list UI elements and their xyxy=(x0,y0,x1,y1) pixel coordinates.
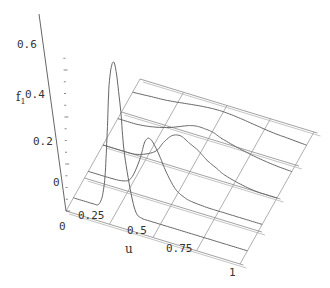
z-tick-label: 0.6 xyxy=(17,38,37,51)
x-axis-label: u xyxy=(125,242,133,256)
z-axis-label-subscript: 1 xyxy=(20,97,25,106)
x-tick-label: 0.75 xyxy=(166,242,193,255)
x-tick-label: 1 xyxy=(229,266,236,279)
base-grid xyxy=(66,79,320,268)
z-tick-label: 0.2 xyxy=(33,135,53,148)
x-tick-label: 0.25 xyxy=(78,209,105,222)
slice-baseline-shadow xyxy=(125,115,302,169)
x-tick-label: 0 xyxy=(59,220,66,233)
slice-baseline-shadow xyxy=(106,148,283,202)
series-curve-slice-1 xyxy=(73,62,247,251)
slice-baseline xyxy=(140,79,317,133)
z-tick-label: 0 xyxy=(53,176,60,189)
slice-baseline-shadow xyxy=(88,181,265,235)
labels: 0 0.25 0.5 0.75 1 u 0 0.2 0.4 0.6 f1 xyxy=(16,38,236,279)
z-tick-label: 0.4 xyxy=(25,88,45,101)
x-tick-label: 0.5 xyxy=(127,224,147,237)
curves xyxy=(73,62,306,251)
chart-3d: 0 0.25 0.5 0.75 1 u 0 0.2 0.4 0.6 f1 xyxy=(0,0,330,288)
slice-baseline-shadow xyxy=(69,214,246,268)
slice-baseline xyxy=(122,112,299,166)
